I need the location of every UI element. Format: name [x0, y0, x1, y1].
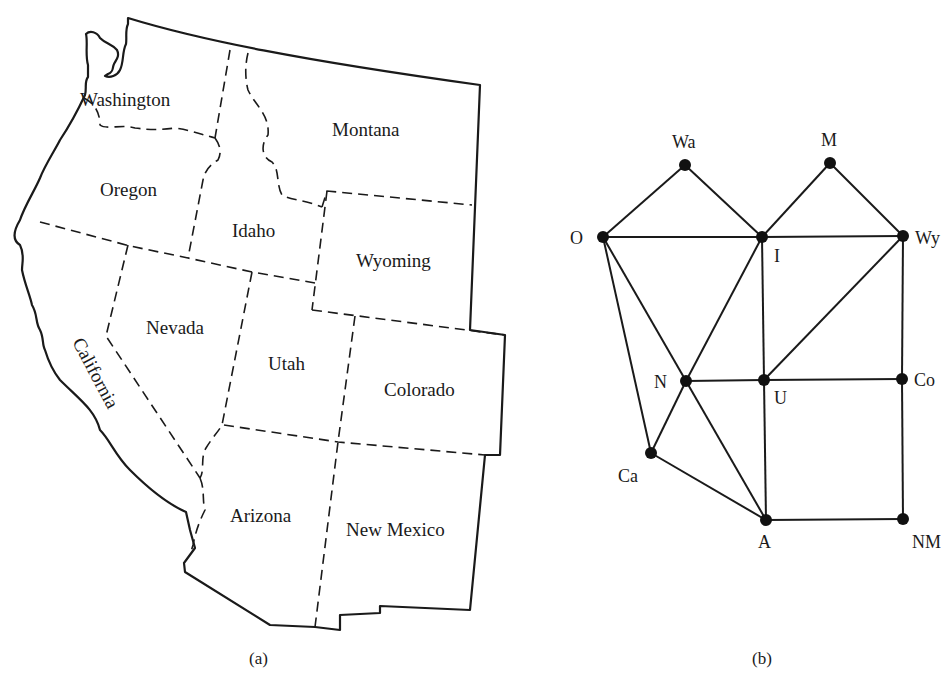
node-wa: [679, 159, 691, 171]
state-label-washington: Washington: [80, 89, 171, 110]
node-wy: [897, 230, 909, 242]
edge-co-nm: [902, 379, 903, 519]
edge-n-u: [686, 380, 764, 381]
node-label-nm: NM: [912, 532, 941, 552]
node-nm: [897, 513, 909, 525]
node-label-wa: Wa: [672, 132, 696, 152]
edge-a-nm: [766, 519, 903, 520]
edge-i-n: [686, 237, 762, 381]
node-label-n: N: [654, 372, 667, 392]
state-label-arizona: Arizona: [230, 505, 292, 526]
edge-m-i: [762, 163, 830, 237]
edge-wa-i: [685, 165, 762, 237]
caption-b: (b): [752, 649, 772, 668]
state-label-new-mexico: New Mexico: [346, 519, 445, 540]
node-label-a: A: [758, 532, 771, 552]
edge-o-ca: [603, 237, 651, 453]
graph-edges: [603, 163, 903, 520]
caption-a: (a): [249, 649, 268, 668]
state-label-oregon: Oregon: [100, 179, 157, 200]
map-panel: Washington Oregon Idaho Montana Wyoming …: [15, 18, 505, 668]
edge-i-wy: [762, 236, 903, 237]
edge-wy-co: [902, 236, 903, 379]
node-n: [680, 375, 692, 387]
node-m: [824, 157, 836, 169]
graph-nodes: [597, 157, 909, 526]
state-label-california: California: [68, 334, 123, 412]
node-o: [597, 231, 609, 243]
node-label-u: U: [774, 388, 787, 408]
node-a: [760, 514, 772, 526]
node-label-co: Co: [914, 370, 935, 390]
state-label-utah: Utah: [268, 353, 305, 374]
node-i: [756, 231, 768, 243]
state-label-wyoming: Wyoming: [356, 250, 431, 271]
node-label-ca: Ca: [618, 466, 638, 486]
node-ca: [645, 447, 657, 459]
node-u: [758, 374, 770, 386]
node-label-wy: Wy: [915, 228, 940, 248]
edge-wy-u: [764, 236, 903, 380]
edge-n-a: [686, 381, 766, 520]
node-label-o: O: [570, 228, 583, 248]
edge-u-a: [764, 380, 766, 520]
node-label-i: I: [774, 246, 780, 266]
node-label-m: M: [821, 130, 837, 150]
edge-i-u: [762, 237, 764, 380]
node-co: [896, 373, 908, 385]
figure-canvas: Washington Oregon Idaho Montana Wyoming …: [0, 0, 952, 689]
state-label-idaho: Idaho: [232, 220, 275, 241]
edge-o-n: [603, 237, 686, 381]
edge-m-wy: [830, 163, 903, 236]
state-label-colorado: Colorado: [384, 379, 455, 400]
edge-wa-o: [603, 165, 685, 237]
graph-panel: Wa M O I Wy N U Co Ca A NM (b): [570, 130, 941, 668]
state-label-montana: Montana: [332, 119, 400, 140]
edge-ca-a: [651, 453, 766, 520]
edge-u-co: [764, 379, 902, 380]
state-label-nevada: Nevada: [146, 317, 205, 338]
